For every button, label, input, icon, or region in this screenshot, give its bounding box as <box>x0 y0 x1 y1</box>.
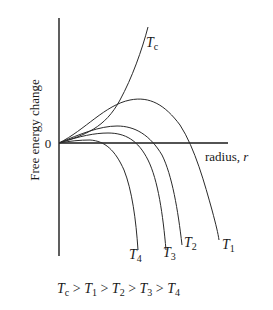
temperature-ordering: Tc > T1 > T2 > T3 > T4 <box>57 281 180 298</box>
label-tc: Tc <box>146 35 159 52</box>
label-t1: T1 <box>222 237 235 254</box>
label-t4: T4 <box>129 247 142 264</box>
label-t2: T2 <box>184 235 197 252</box>
curve-t4 <box>59 140 138 250</box>
curve-t1 <box>59 99 219 240</box>
curve-tc <box>59 27 148 143</box>
label-t3: T3 <box>163 245 176 262</box>
zero-label: 0 <box>45 136 52 151</box>
free-energy-chart: 0 Free energy change radius, r Tc T1 T2 … <box>0 0 273 310</box>
x-axis-label: radius, r <box>205 149 249 164</box>
y-axis-label: Free energy change <box>27 79 42 181</box>
